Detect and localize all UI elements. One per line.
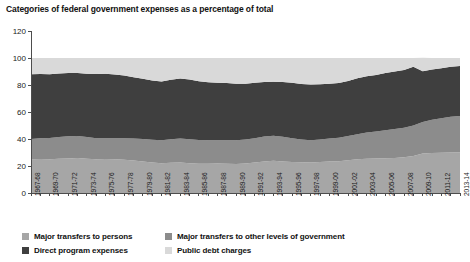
x-tick-label: 1993-94: [276, 173, 283, 197]
x-tick-label: 1967-68: [34, 173, 41, 197]
x-tick-label: 1969-70: [52, 173, 59, 197]
y-tick-label: 60: [17, 108, 26, 117]
x-tick-label: 1987-88: [220, 173, 227, 197]
x-tick-label: 1977-78: [127, 173, 134, 197]
y-tick-label: 20: [17, 162, 26, 171]
legend-item[interactable]: Direct program expenses: [22, 246, 128, 255]
x-tick-label: 1975-76: [108, 173, 115, 197]
x-tick-label: 2003-04: [369, 173, 376, 197]
legend-label: Major transfers to other levels of gover…: [177, 232, 345, 241]
x-tick-label: 2005-06: [388, 173, 395, 197]
x-tick-label: 2007-08: [407, 173, 414, 197]
legend-label: Public debt charges: [177, 246, 251, 255]
legend-item[interactable]: Public debt charges: [165, 246, 251, 255]
legend-swatch-icon: [165, 247, 172, 254]
x-tick-label: 1997-98: [313, 173, 320, 197]
x-tick-label: 2011-12: [444, 173, 451, 196]
x-axis-labels: 1967-681969-701971-721973-741975-761977-…: [0, 196, 470, 230]
y-tick-label: 120: [13, 27, 27, 36]
chart-title: Categories of federal government expense…: [6, 4, 273, 14]
legend-item[interactable]: Major transfers to persons: [22, 232, 132, 241]
x-tick-label: 2013-14: [463, 173, 470, 197]
legend-item[interactable]: Major transfers to other levels of gover…: [165, 232, 345, 241]
x-tick-label: 1979-80: [146, 173, 153, 197]
y-tick-group: 020406080100120: [13, 27, 31, 198]
legend-swatch-icon: [22, 247, 29, 254]
chart-legend: Major transfers to personsMajor transfer…: [0, 231, 470, 261]
x-tick-label: 1999-00: [332, 173, 339, 197]
legend-label: Major transfers to persons: [34, 232, 132, 241]
y-tick-label: 100: [13, 54, 27, 63]
y-tick-label: 40: [17, 135, 26, 144]
x-tick-label: 1989-90: [239, 173, 246, 197]
x-tick-label: 1983-84: [183, 173, 190, 197]
x-tick-label: 1991-92: [257, 173, 264, 197]
x-tick-label: 2009-10: [425, 173, 432, 197]
chart-figure: Categories of federal government expense…: [0, 0, 470, 262]
x-tick-label: 2001-02: [351, 173, 358, 197]
x-tick-label: 1985-86: [201, 173, 208, 197]
x-tick-label: 1981-82: [164, 173, 171, 197]
y-tick-label: 80: [17, 81, 26, 90]
x-tick-label: 1995-96: [295, 173, 302, 197]
legend-label: Direct program expenses: [34, 246, 128, 255]
x-tick-label: 1973-74: [90, 173, 97, 197]
x-tick-label: 1971-72: [71, 173, 78, 197]
legend-swatch-icon: [22, 233, 29, 240]
legend-swatch-icon: [165, 233, 172, 240]
